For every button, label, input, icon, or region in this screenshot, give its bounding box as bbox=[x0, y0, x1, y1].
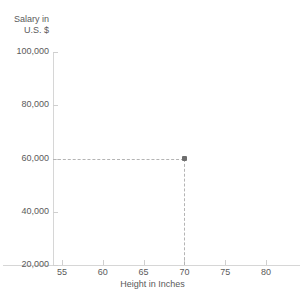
y-tick-mark bbox=[53, 105, 58, 106]
x-tick-label: 65 bbox=[129, 267, 159, 277]
x-tick-mark bbox=[144, 260, 145, 265]
salary-vs-height-chart: Salary in U.S. $ 20,00040,00060,00080,00… bbox=[0, 0, 305, 299]
x-tick-mark bbox=[103, 260, 104, 265]
x-tick-mark bbox=[266, 260, 267, 265]
y-tick-label: 100,000 bbox=[0, 46, 49, 56]
vertical-guide-line bbox=[184, 159, 185, 266]
data-point-marker[interactable] bbox=[182, 156, 187, 161]
y-tick-label: 80,000 bbox=[0, 99, 49, 109]
x-tick-label: 75 bbox=[210, 267, 240, 277]
y-axis-title-line-2: U.S. $ bbox=[0, 25, 49, 36]
y-axis-title-line-1: Salary in bbox=[0, 14, 49, 25]
x-tick-label: 80 bbox=[251, 267, 281, 277]
x-tick-mark bbox=[62, 260, 63, 265]
x-tick-label: 55 bbox=[47, 267, 77, 277]
y-tick-mark bbox=[53, 52, 58, 53]
horizontal-guide-line bbox=[53, 159, 184, 160]
x-axis-title: Height in Inches bbox=[0, 279, 305, 290]
x-tick-label: 60 bbox=[88, 267, 118, 277]
y-tick-mark bbox=[53, 265, 58, 266]
x-tick-label: 70 bbox=[169, 267, 199, 277]
y-axis-title: Salary in U.S. $ bbox=[0, 14, 49, 36]
y-tick-label: 20,000 bbox=[0, 259, 49, 269]
y-tick-mark bbox=[53, 212, 58, 213]
y-tick-label: 60,000 bbox=[0, 153, 49, 163]
x-tick-mark bbox=[225, 260, 226, 265]
y-tick-label: 40,000 bbox=[0, 206, 49, 216]
